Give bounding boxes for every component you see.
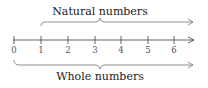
tick-label: 4 [118,45,123,55]
number-line-axis [13,36,194,44]
whole-numbers-label: Whole numbers [56,70,144,83]
tick-label: 6 [171,45,176,55]
natural-numbers-label: Natural numbers [52,5,148,18]
number-line-diagram: Natural numbers 0 1 2 3 4 5 6 Whole numb… [0,0,208,88]
tick-label: 2 [65,45,70,55]
natural-numbers-brace [41,18,193,26]
tick-labels: 0 1 2 3 4 5 6 [11,45,176,55]
tick-label: 3 [92,45,97,55]
whole-numbers-brace [14,60,193,69]
tick-label: 5 [145,45,150,55]
tick-label: 0 [11,45,16,55]
tick-label: 1 [38,45,43,55]
